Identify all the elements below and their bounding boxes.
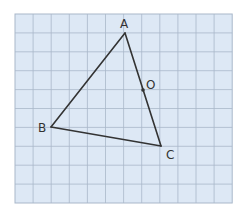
point-o-marker — [141, 88, 145, 92]
point-label-o: O — [146, 78, 155, 92]
point-label-b: B — [38, 121, 46, 135]
triangle-diagram: ABCO — [0, 0, 242, 212]
point-label-c: C — [166, 148, 174, 162]
point-label-a: A — [120, 17, 129, 31]
